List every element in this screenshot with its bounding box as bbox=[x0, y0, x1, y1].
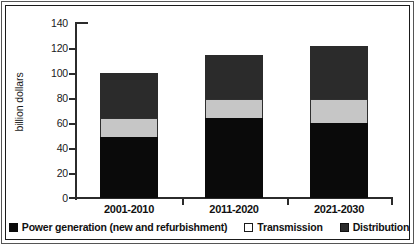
legend-item-transmission: Transmission bbox=[244, 221, 322, 233]
y-tick-label-120: 120 bbox=[38, 42, 68, 54]
x-axis-label-2001-2010: 2001-2010 bbox=[74, 203, 184, 215]
y-axis-title: billion dollars bbox=[13, 42, 25, 162]
chart-legend: Power generation (new and refurbishment)… bbox=[14, 219, 404, 235]
bar-segment-power-generation bbox=[205, 118, 263, 198]
y-tick-label-0: 0 bbox=[38, 192, 68, 204]
y-tick-group-20: 20 bbox=[30, 167, 68, 179]
bar-segment-transmission bbox=[310, 99, 368, 124]
bar-segment-distribution bbox=[100, 73, 158, 120]
y-tick-group-40: 40 bbox=[30, 142, 68, 154]
filled-square-dark-gray-icon bbox=[340, 223, 349, 232]
legend-label-distribution: Distribution bbox=[353, 221, 410, 233]
bar-segment-transmission bbox=[100, 118, 158, 138]
bar-segment-distribution bbox=[310, 46, 368, 100]
legend-item-power-generation: Power generation (new and refurbishment) bbox=[9, 221, 228, 233]
bar-2021-2030 bbox=[310, 23, 368, 198]
chart-figure: billion dollars 140 120 100 80 60 40 20 … bbox=[0, 0, 416, 246]
y-tick-label-140: 140 bbox=[38, 17, 68, 29]
y-tick-group-0: 0 bbox=[30, 192, 68, 204]
y-tick-label-60: 60 bbox=[38, 117, 68, 129]
bar-segment-distribution bbox=[205, 55, 263, 101]
outlined-square-white-icon bbox=[244, 223, 253, 232]
y-axis-line bbox=[75, 22, 77, 200]
bar-segment-power-generation bbox=[100, 137, 158, 198]
bar-segment-power-generation bbox=[310, 123, 368, 198]
y-tick-group-60: 60 bbox=[30, 117, 68, 129]
legend-label-power-generation: Power generation (new and refurbishment) bbox=[22, 221, 228, 233]
bar-2011-2020 bbox=[205, 23, 263, 198]
legend-label-transmission: Transmission bbox=[257, 221, 322, 233]
y-tick-group-80: 80 bbox=[30, 92, 68, 104]
y-tick-label-20: 20 bbox=[38, 167, 68, 179]
legend-item-distribution: Distribution bbox=[340, 221, 410, 233]
bar-segment-transmission bbox=[205, 99, 263, 119]
x-axis-label-2011-2020: 2011-2020 bbox=[179, 203, 289, 215]
bar-2001-2010 bbox=[100, 23, 158, 198]
x-axis-label-2021-2030: 2021-2030 bbox=[284, 203, 394, 215]
y-tick-label-100: 100 bbox=[38, 67, 68, 79]
y-tick-group-140: 140 bbox=[30, 17, 68, 29]
filled-square-black-icon bbox=[9, 223, 18, 232]
y-tick-label-80: 80 bbox=[38, 92, 68, 104]
y-tick-group-100: 100 bbox=[30, 67, 68, 79]
y-tick-group-120: 120 bbox=[30, 42, 68, 54]
y-tick-label-40: 40 bbox=[38, 142, 68, 154]
